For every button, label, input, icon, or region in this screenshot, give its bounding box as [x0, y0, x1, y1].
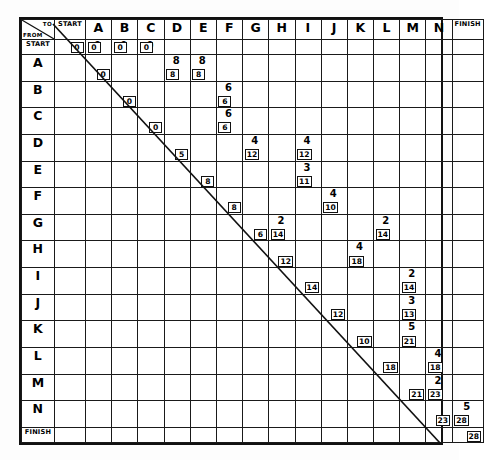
row-header-start[interactable]: START — [22, 40, 55, 55]
cell-c-k[interactable] — [347, 108, 373, 135]
cell-m-h[interactable] — [269, 374, 295, 401]
cell-c-e[interactable] — [190, 108, 216, 135]
cell-f-m[interactable] — [400, 188, 426, 215]
column-header-start[interactable]: START — [55, 20, 86, 40]
column-header-c[interactable]: C — [138, 20, 164, 40]
cell-e-j[interactable] — [321, 161, 347, 188]
cell-start-start[interactable]: 0 — [55, 40, 86, 55]
cell-a-l[interactable] — [374, 54, 400, 81]
row-header-m[interactable]: M — [22, 374, 55, 401]
cell-a-d[interactable]: 88 — [164, 54, 190, 81]
cell-d-m[interactable] — [400, 134, 426, 161]
row-header-h[interactable]: H — [22, 241, 55, 268]
cell-k-finish[interactable] — [452, 321, 483, 348]
column-header-f[interactable]: F — [216, 20, 242, 40]
cell-j-l[interactable] — [374, 294, 400, 321]
cell-k-l[interactable] — [374, 321, 400, 348]
cell-b-l[interactable] — [374, 81, 400, 108]
cell-f-l[interactable] — [374, 188, 400, 215]
cell-e-b[interactable] — [112, 161, 138, 188]
cell-k-n[interactable] — [426, 321, 452, 348]
cell-a-g[interactable] — [243, 54, 269, 81]
cell-f-finish[interactable] — [452, 188, 483, 215]
cell-m-i[interactable] — [295, 374, 321, 401]
cell-c-a[interactable] — [86, 108, 112, 135]
cell-finish-f[interactable] — [216, 427, 242, 442]
cell-d-h[interactable] — [269, 134, 295, 161]
cell-e-m[interactable] — [400, 161, 426, 188]
cell-i-c[interactable] — [138, 268, 164, 295]
cell-g-start[interactable] — [55, 214, 86, 241]
cell-g-b[interactable] — [112, 214, 138, 241]
cell-f-k[interactable] — [347, 188, 373, 215]
distance-matrix[interactable]: TOFROMSTARTABCDEFGHIJKLMNFINISHSTART0000… — [19, 17, 443, 445]
cell-k-k[interactable]: 10 — [347, 321, 373, 348]
cell-d-start[interactable] — [55, 134, 86, 161]
cell-l-k[interactable] — [347, 348, 373, 375]
cell-f-h[interactable] — [269, 188, 295, 215]
cell-j-h[interactable] — [269, 294, 295, 321]
cell-n-l[interactable] — [374, 401, 400, 428]
cell-h-f[interactable] — [216, 241, 242, 268]
cell-d-finish[interactable] — [452, 134, 483, 161]
cell-b-d[interactable] — [164, 81, 190, 108]
column-header-finish[interactable]: FINISH — [452, 20, 483, 40]
cell-n-j[interactable] — [321, 401, 347, 428]
cell-f-d[interactable] — [164, 188, 190, 215]
cell-c-finish[interactable] — [452, 108, 483, 135]
cell-d-a[interactable] — [86, 134, 112, 161]
cell-m-e[interactable] — [190, 374, 216, 401]
cell-j-finish[interactable] — [452, 294, 483, 321]
cell-b-start[interactable] — [55, 81, 86, 108]
cell-c-i[interactable] — [295, 108, 321, 135]
cell-j-d[interactable] — [164, 294, 190, 321]
cell-d-e[interactable] — [190, 134, 216, 161]
cell-n-n[interactable]: 23 — [426, 401, 452, 428]
cell-l-a[interactable] — [86, 348, 112, 375]
column-header-a[interactable]: A — [86, 20, 112, 40]
cell-i-e[interactable] — [190, 268, 216, 295]
cell-g-m[interactable] — [400, 214, 426, 241]
cell-d-l[interactable] — [374, 134, 400, 161]
cell-k-start[interactable] — [55, 321, 86, 348]
cell-n-i[interactable] — [295, 401, 321, 428]
cell-j-n[interactable] — [426, 294, 452, 321]
cell-start-k[interactable] — [347, 40, 373, 55]
cell-a-i[interactable] — [295, 54, 321, 81]
cell-i-f[interactable] — [216, 268, 242, 295]
cell-a-b[interactable] — [112, 54, 138, 81]
cell-c-j[interactable] — [321, 108, 347, 135]
cell-j-a[interactable] — [86, 294, 112, 321]
row-header-n[interactable]: N — [22, 401, 55, 428]
cell-i-g[interactable] — [243, 268, 269, 295]
cell-e-a[interactable] — [86, 161, 112, 188]
cell-i-n[interactable] — [426, 268, 452, 295]
cell-l-m[interactable] — [400, 348, 426, 375]
cell-a-k[interactable] — [347, 54, 373, 81]
cell-j-f[interactable] — [216, 294, 242, 321]
cell-start-h[interactable] — [269, 40, 295, 55]
cell-f-g[interactable] — [243, 188, 269, 215]
cell-h-j[interactable] — [321, 241, 347, 268]
cell-finish-e[interactable] — [190, 427, 216, 442]
cell-i-m[interactable]: 214 — [400, 268, 426, 295]
cell-i-d[interactable] — [164, 268, 190, 295]
cell-finish-j[interactable] — [321, 427, 347, 442]
cell-n-g[interactable] — [243, 401, 269, 428]
cell-g-a[interactable] — [86, 214, 112, 241]
cell-c-b[interactable] — [112, 108, 138, 135]
cell-h-n[interactable] — [426, 241, 452, 268]
cell-l-e[interactable] — [190, 348, 216, 375]
column-header-m[interactable]: M — [400, 20, 426, 40]
cell-d-f[interactable] — [216, 134, 242, 161]
cell-n-f[interactable] — [216, 401, 242, 428]
cell-h-finish[interactable] — [452, 241, 483, 268]
cell-e-e[interactable]: 8 — [190, 161, 216, 188]
cell-start-a[interactable]: 00 — [86, 40, 112, 55]
cell-f-b[interactable] — [112, 188, 138, 215]
cell-d-k[interactable] — [347, 134, 373, 161]
cell-finish-m[interactable] — [400, 427, 426, 442]
cell-m-m[interactable]: 21 — [400, 374, 426, 401]
cell-j-g[interactable] — [243, 294, 269, 321]
column-header-j[interactable]: J — [321, 20, 347, 40]
